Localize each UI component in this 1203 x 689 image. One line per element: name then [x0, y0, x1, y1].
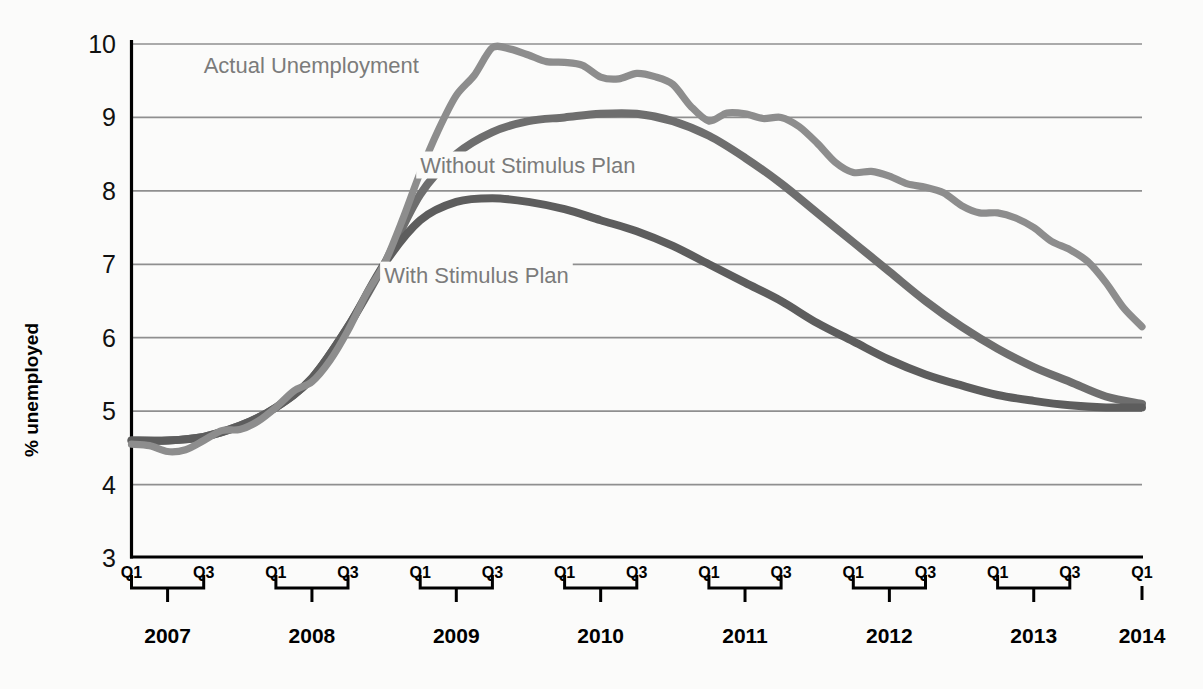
year-label-2011: 2011: [722, 624, 768, 647]
quarter-label-2007-Q3: Q3: [193, 564, 214, 581]
quarter-label-2009-Q3: Q3: [482, 564, 503, 581]
quarter-label-2010-Q1: Q1: [554, 564, 575, 581]
quarter-label-2011-Q3: Q3: [770, 564, 791, 581]
y-tick-label-9: 9: [102, 103, 116, 131]
quarter-label-2010-Q3: Q3: [626, 564, 647, 581]
quarter-label-2013-Q1: Q1: [987, 564, 1008, 581]
quarter-label-2012-Q1: Q1: [843, 564, 864, 581]
year-label-2007: 2007: [144, 624, 191, 647]
quarter-label-2013-Q3: Q3: [1059, 564, 1080, 581]
y-tick-label-10: 10: [88, 30, 116, 58]
quarter-label-2007-Q1: Q1: [121, 564, 142, 581]
year-label-2008: 2008: [289, 624, 336, 647]
quarter-label-2008-Q1: Q1: [265, 564, 286, 581]
year-label-2012: 2012: [866, 624, 913, 647]
year-label-2014: 2014: [1119, 624, 1166, 647]
quarter-label-2014-Q1: Q1: [1131, 564, 1152, 581]
x-axis-quarter-labels: Q1Q3Q1Q3Q1Q3Q1Q3Q1Q3Q1Q3Q1Q3Q1: [121, 564, 1153, 581]
annotation-actual-unemployment: Actual Unemployment: [204, 53, 419, 78]
year-label-2013: 2013: [1010, 624, 1057, 647]
quarter-label-2012-Q3: Q3: [915, 564, 936, 581]
y-axis-title: % unemployed: [21, 323, 42, 457]
y-tick-label-8: 8: [102, 177, 116, 205]
chart-container: 345678910 % unemployed Q1Q3Q1Q3Q1Q3Q1Q3Q…: [0, 0, 1203, 689]
y-tick-label-7: 7: [102, 250, 116, 278]
quarter-label-2008-Q3: Q3: [337, 564, 358, 581]
year-label-2009: 2009: [433, 624, 480, 647]
annotation-with-stimulus-plan: With Stimulus Plan: [384, 263, 569, 288]
y-axis-title-group: % unemployed: [21, 323, 42, 457]
year-label-2010: 2010: [577, 624, 624, 647]
quarter-label-2011-Q1: Q1: [698, 564, 719, 581]
annotation-without-stimulus-plan: Without Stimulus Plan: [420, 153, 635, 178]
y-tick-label-3: 3: [102, 544, 116, 572]
unemployment-line-chart: 345678910 % unemployed Q1Q3Q1Q3Q1Q3Q1Q3Q…: [0, 0, 1203, 689]
y-tick-label-5: 5: [102, 397, 116, 425]
quarter-label-2009-Q1: Q1: [410, 564, 431, 581]
y-tick-label-4: 4: [102, 471, 116, 499]
y-tick-label-6: 6: [102, 324, 116, 352]
chart-background: [0, 0, 1203, 689]
